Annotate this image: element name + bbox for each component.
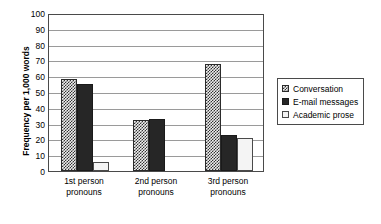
y-tick-label: 100 xyxy=(31,9,45,19)
legend-item: Academic prose xyxy=(282,108,358,121)
solid-swatch-icon xyxy=(282,98,289,105)
y-tick-label: 30 xyxy=(36,120,45,130)
empty-swatch-icon xyxy=(282,111,289,118)
y-tick-label: 70 xyxy=(36,56,45,66)
bar-groups xyxy=(49,14,263,171)
bar xyxy=(93,162,109,171)
x-axis-label: 2nd personpronouns xyxy=(120,176,192,198)
y-axis-title: Frequency per 1,000 words xyxy=(21,21,31,181)
bar xyxy=(77,84,93,171)
legend-label: Conversation xyxy=(293,84,343,94)
plot-area: 0102030405060708090100 xyxy=(48,14,264,172)
bar-group xyxy=(133,14,181,171)
y-tick-label: 40 xyxy=(36,104,45,114)
y-tick-label: 0 xyxy=(40,167,45,177)
bar-group xyxy=(205,14,253,171)
y-tick-label: 50 xyxy=(36,88,45,98)
legend-item: Conversation xyxy=(282,82,358,95)
legend-item: E-mail messages xyxy=(282,95,358,108)
bar xyxy=(133,120,149,171)
y-tick-label: 90 xyxy=(36,25,45,35)
y-tick-label: 80 xyxy=(36,41,45,51)
x-axis-label: 1st personpronouns xyxy=(48,176,120,198)
bar xyxy=(149,119,165,171)
y-tick-label: 60 xyxy=(36,72,45,82)
x-axis-label: 3rd personpronouns xyxy=(192,176,264,198)
y-tick-label: 10 xyxy=(36,151,45,161)
bar-chart: Frequency per 1,000 words 01020304050607… xyxy=(0,0,381,224)
legend: ConversationE-mail messagesAcademic pros… xyxy=(277,78,364,125)
y-tick-label: 20 xyxy=(36,135,45,145)
legend-label: E-mail messages xyxy=(293,97,358,107)
checkered-swatch-icon xyxy=(282,85,289,92)
legend-label: Academic prose xyxy=(293,110,354,120)
x-axis-labels: 1st personpronouns2nd personpronouns3rd … xyxy=(48,176,264,216)
bar xyxy=(205,64,221,171)
bar xyxy=(237,138,253,171)
bar xyxy=(61,79,77,171)
bar xyxy=(221,135,237,171)
bar-group xyxy=(61,14,109,171)
